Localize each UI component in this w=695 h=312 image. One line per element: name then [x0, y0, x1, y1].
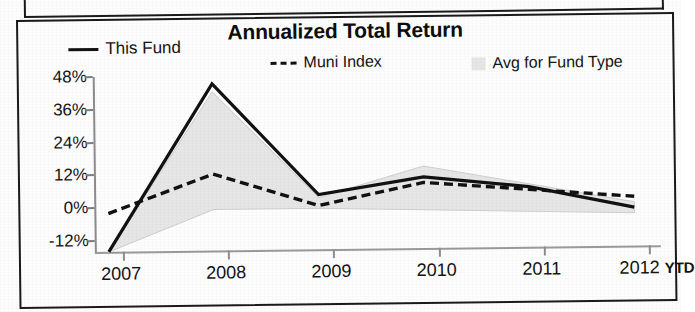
legend-label-muni-index: Muni Index: [303, 53, 381, 72]
y-tick-mark: [85, 109, 93, 111]
y-tick-mark: [87, 240, 95, 242]
legend-label-avg-for-fund-type: Avg for Fund Type: [492, 53, 622, 73]
dashed-line-swatch-icon: [271, 61, 297, 64]
y-tick-mark: [86, 207, 94, 209]
shaded-area-swatch-icon: [471, 57, 485, 70]
x-tick-mark: [333, 249, 335, 258]
y-tick-label: 12%: [54, 166, 88, 186]
y-tick-label: 36%: [53, 100, 87, 120]
series-lines: [93, 70, 661, 252]
legend-item-avg-for-fund-type: Avg for Fund Type: [471, 53, 622, 73]
x-tick-mark: [649, 245, 651, 254]
x-tick-label: 2010: [417, 260, 457, 281]
x-tick-mark: [228, 250, 230, 259]
y-tick-label: 24%: [53, 133, 87, 153]
plot-area: 48%36%24%12%0%-12% 200720082009201020112…: [93, 70, 635, 252]
y-tick-label: 48%: [53, 67, 87, 87]
solid-line-swatch-icon: [68, 47, 98, 50]
y-tick-mark: [85, 76, 93, 78]
x-axis-ytd-note: YTD: [664, 259, 694, 276]
y-tick-mark: [86, 174, 94, 176]
x-tick-mark: [438, 248, 440, 257]
annualized-total-return-chart: Annualized Total Return This Fund Muni I…: [16, 12, 677, 309]
x-tick-label: 2012YTD: [619, 257, 694, 279]
y-tick-mark: [85, 142, 93, 144]
legend-item-muni-index: Muni Index: [270, 53, 381, 72]
x-tick-label: 2009: [311, 261, 351, 282]
y-tick-label: 0%: [64, 198, 89, 218]
x-tick-label: 2011: [522, 258, 561, 279]
x-tick-label: 2008: [206, 262, 246, 283]
area-avg-for-fund-type: [107, 87, 635, 252]
legend-label-this-fund: This Fund: [105, 38, 181, 59]
x-tick-mark: [123, 252, 125, 261]
legend-item-this-fund: This Fund: [68, 38, 181, 59]
x-tick-label: 2007: [101, 263, 141, 284]
x-tick-mark: [544, 247, 546, 256]
y-tick-label: -12%: [49, 231, 89, 251]
